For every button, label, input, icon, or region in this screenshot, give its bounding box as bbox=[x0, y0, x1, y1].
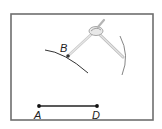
diagram-frame bbox=[11, 14, 153, 120]
label-a: A bbox=[33, 109, 41, 121]
point-d bbox=[95, 104, 99, 108]
point-a bbox=[37, 104, 41, 108]
point-b bbox=[66, 54, 70, 58]
geometry-diagram: B A D bbox=[0, 0, 162, 129]
label-d: D bbox=[92, 109, 100, 121]
label-b: B bbox=[60, 42, 67, 54]
